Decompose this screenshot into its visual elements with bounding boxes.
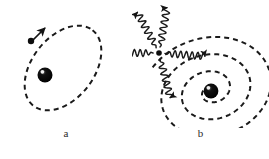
panel-a-diagram — [0, 0, 132, 128]
orbit-path-a — [9, 11, 117, 125]
electron-a — [28, 38, 34, 44]
nucleus-highlight-b — [207, 86, 211, 90]
photon-left — [132, 50, 153, 57]
nucleus-a — [38, 68, 53, 83]
panel-a-caption: a — [0, 128, 132, 139]
figure-root: a — [0, 0, 269, 159]
panel-b: b — [132, 0, 269, 159]
photon-up-left — [135, 12, 156, 47]
photon-group-b — [132, 8, 205, 98]
electron-b — [156, 50, 162, 56]
photon-right — [165, 51, 205, 59]
velocity-arrow-a — [32, 28, 45, 41]
nucleus-b — [204, 84, 219, 99]
panel-b-caption: b — [132, 128, 269, 139]
nucleus-highlight-a — [41, 70, 45, 74]
panel-b-diagram — [132, 0, 269, 128]
photon-up-right — [159, 8, 170, 47]
panel-a: a — [0, 0, 132, 159]
